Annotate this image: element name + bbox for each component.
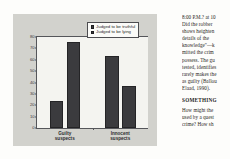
plot-area: 01020304050607080 GuiltysuspectsInnocent… bbox=[36, 36, 148, 129]
x-axis-group-label: Innocentsuspects bbox=[110, 131, 130, 142]
bar bbox=[67, 42, 81, 128]
y-axis-tick-label: 70 bbox=[30, 46, 34, 50]
bar bbox=[50, 101, 64, 128]
y-axis-tick-label: 20 bbox=[30, 103, 34, 107]
paragraph-line: knowledge"—k bbox=[182, 42, 230, 49]
paragraph-line: as guilty (Ballou bbox=[182, 78, 230, 85]
paragraph-block: 8:00 P.M.? at 10Did the robbershows heig… bbox=[182, 14, 230, 92]
y-axis-tick-label: 30 bbox=[30, 92, 34, 96]
paragraph-line: mitted the crim bbox=[182, 49, 230, 56]
bar-chart-figure: 01020304050607080 GuiltysuspectsInnocent… bbox=[13, 14, 157, 146]
legend-label-lying: Judged to be lying bbox=[96, 30, 131, 34]
paragraph-line: Did the robber bbox=[182, 21, 230, 28]
bars-container bbox=[37, 37, 148, 128]
x-axis-group-label-line: suspects bbox=[110, 136, 130, 141]
y-axis-tick-label: 40 bbox=[30, 80, 34, 84]
body-text-column: 8:00 P.M.? at 10Did the robbershows heig… bbox=[182, 14, 230, 159]
bar bbox=[122, 86, 136, 128]
paragraph-line: shows heighten bbox=[182, 28, 230, 35]
y-axis-tick-label: 80 bbox=[30, 35, 34, 39]
paragraph-line: rarely makes the bbox=[182, 71, 230, 78]
paragraph-line: Elaad, 1990). bbox=[182, 85, 230, 92]
y-axis-tick-label: 60 bbox=[30, 58, 34, 62]
paragraph-line: possess. The gu bbox=[182, 57, 230, 64]
x-axis-tick-mark bbox=[93, 128, 94, 130]
bar bbox=[105, 56, 119, 128]
paragraph-line: tested, identifies bbox=[182, 64, 230, 71]
chart-legend: Judged to be truthful Judged to be lying bbox=[87, 22, 139, 38]
x-axis-group-label-line: suspects bbox=[55, 136, 75, 141]
page-canvas: 01020304050607080 GuiltysuspectsInnocent… bbox=[0, 0, 230, 159]
closing-paragraph-line: used by a quest bbox=[182, 114, 230, 121]
x-axis-group-label: Guiltysuspects bbox=[55, 131, 75, 142]
paragraph-line: 8:00 P.M.? at 10 bbox=[182, 14, 230, 21]
section-heading: SOMETHING bbox=[182, 97, 230, 104]
y-axis-tick-label: 10 bbox=[30, 115, 34, 119]
closing-paragraph-line: How might the bbox=[182, 107, 230, 114]
closing-paragraph-line: crime? How sh bbox=[182, 121, 230, 128]
legend-item-lying: Judged to be lying bbox=[91, 30, 136, 34]
legend-swatch-icon bbox=[91, 31, 95, 35]
paragraph-line: details of the bbox=[182, 35, 230, 42]
legend-swatch-icon bbox=[91, 25, 95, 29]
y-axis-tick-label: 50 bbox=[30, 69, 34, 73]
closing-paragraph-block: How might theused by a questcrime? How s… bbox=[182, 107, 230, 128]
